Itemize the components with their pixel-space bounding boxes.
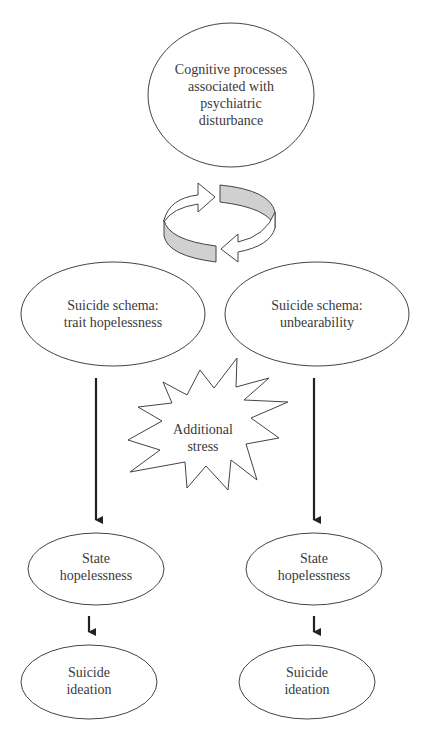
ideation-right-line-1: Suicide [284,664,329,681]
top-line-1: Cognitive processes [175,61,287,78]
ideation-right-line-2: ideation [284,681,329,698]
top-line-4: disturbance [175,112,287,129]
state-left-line-1: State [60,550,132,567]
state-right-line-2: hopelessness [278,567,350,584]
ideation-left-line-2: ideation [66,681,111,698]
schema-left-label: Suicide schema: trait hopelessness [33,290,193,338]
state-left-line-2: hopelessness [60,567,132,584]
ideation-left-label: Suicide ideation [29,661,149,701]
circular-arrows-icon [164,183,275,262]
stress-label: Additional stress [163,418,243,458]
schema-left-line-2: trait hopelessness [64,314,162,331]
top-node-label: Cognitive processes associated with psyc… [161,40,301,150]
schema-left-line-1: Suicide schema: [64,297,162,314]
state-right-line-1: State [278,550,350,567]
top-line-2: associated with [175,78,287,95]
stress-line-2: stress [173,438,233,455]
stress-line-1: Additional [173,421,233,438]
state-left-label: State hopelessness [36,547,156,587]
state-right-label: State hopelessness [254,547,374,587]
schema-right-label: Suicide schema: unbearability [237,290,397,338]
ideation-right-label: Suicide ideation [247,661,367,701]
schema-right-line-2: unbearability [271,314,362,331]
ideation-left-line-1: Suicide [66,664,111,681]
top-line-3: psychiatric [175,95,287,112]
schema-right-line-1: Suicide schema: [271,297,362,314]
